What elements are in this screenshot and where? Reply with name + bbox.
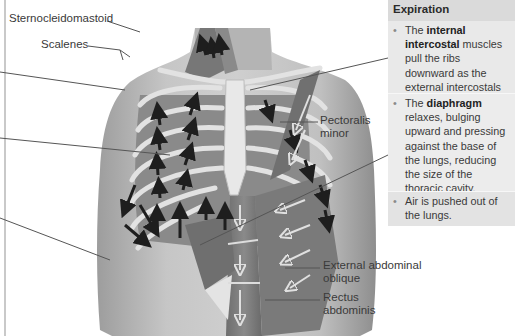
bullet-icon: • xyxy=(393,23,397,37)
label-rectus-abdominis-line1: Rectus xyxy=(323,291,359,304)
label-external-abdominal-oblique-line2: oblique xyxy=(323,272,360,285)
label-pectoralis-minor-line2: minor xyxy=(320,127,349,140)
label-pectoralis-minor-line1: Pectoralis xyxy=(320,114,371,127)
label-rectus-abdominis-line2: abdominis xyxy=(323,304,375,317)
expiration-diagram: Sternocleidomastoid Scalenes Pectoralis … xyxy=(0,0,515,336)
label-external-abdominal-oblique-line1: External abdominal xyxy=(323,259,421,272)
label-sternocleidomastoid: Sternocleidomastoid xyxy=(9,12,113,25)
bullet-icon: • xyxy=(393,194,397,208)
label-scalenes: Scalenes xyxy=(41,38,88,51)
bullet-icon: • xyxy=(393,96,397,110)
sidebar-bullet-3: • Air is pushed out of the lungs. xyxy=(388,191,515,226)
sidebar-title: Expiration xyxy=(388,0,515,21)
expiration-sidebar: Expiration • The internal intercostal mu… xyxy=(388,0,515,226)
sidebar-bullet-2: • The diaphragm relaxes, bulging upward … xyxy=(388,93,515,191)
sidebar-bullet-1: • The internal intercostal muscles pull … xyxy=(388,21,515,93)
